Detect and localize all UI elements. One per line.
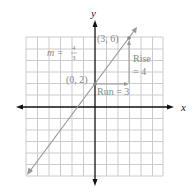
run-label: Run = 3 [97,86,129,97]
x-axis-label: x [180,101,186,113]
slope-label: m = 4 3 [47,44,77,62]
y-axis-up-arrow-icon [93,20,98,27]
coordinate-plane: x y m = 4 3 (3, 6) (0, 2) Rise = 4 Run =… [0,0,195,196]
svg-text:m =: m = [47,47,63,58]
rise-arrow-icon [127,40,131,45]
rise-label-line1: Rise [133,53,151,64]
y-axis-down-arrow-icon [93,179,98,186]
slope-denominator: 3 [72,54,76,62]
point-b-marker [127,36,131,40]
point-a-label: (0, 2) [66,74,88,86]
point-b-label: (3, 6) [97,33,119,45]
rise-run-triangle [96,40,131,86]
y-axis-label: y [90,7,96,19]
rise-label-line2: = 4 [133,66,146,77]
x-axis-left-arrow-icon [16,105,23,110]
slope-numerator: 4 [72,44,76,52]
y-axis [93,20,98,186]
x-axis-right-arrow-icon [167,105,174,110]
